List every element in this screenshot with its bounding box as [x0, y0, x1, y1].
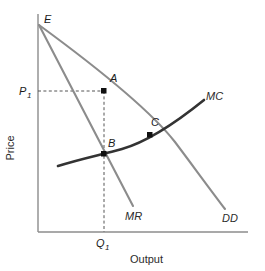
- point-label-b: B: [108, 137, 115, 149]
- point-label-e: E: [44, 13, 52, 25]
- curve-label-dd: DD: [222, 212, 238, 224]
- mc-marginal-cost-curve: [58, 100, 204, 166]
- y-axis-title: Price: [4, 135, 16, 160]
- point-label-c: C: [151, 116, 159, 128]
- point-c-marker: [147, 132, 153, 138]
- point-label-a: A: [109, 72, 117, 84]
- point-a-marker: [101, 88, 107, 94]
- curve-label-mr: MR: [125, 210, 142, 222]
- point-b-marker: [101, 151, 107, 157]
- economics-diagram: E A B C MC DD MR P 1 Q 1 Output Price: [0, 0, 265, 271]
- x-tick-sub-q1: 1: [105, 243, 109, 252]
- x-axis-title: Output: [130, 253, 163, 265]
- curve-label-mc: MC: [206, 90, 223, 102]
- x-tick-label-q1: Q: [96, 237, 105, 249]
- mr-marginal-revenue-curve: [39, 25, 133, 206]
- y-tick-sub-p1: 1: [27, 91, 31, 100]
- dd-demand-curve: [39, 25, 225, 209]
- y-tick-label-p1: P: [19, 85, 27, 97]
